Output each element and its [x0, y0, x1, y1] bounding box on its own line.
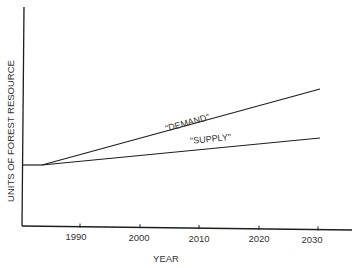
supply-label: "SUPPLY" [190, 132, 232, 146]
supply-line [42, 138, 320, 165]
x-tick-label-2000: 2000 [128, 232, 149, 243]
demand-label: "DEMAND" [164, 112, 210, 134]
y-axis [22, 7, 24, 226]
chart: 1990 2000 2010 2020 2030 YEAR UNITS OF F… [0, 0, 358, 268]
x-tick-label-2020: 2020 [248, 233, 269, 244]
x-tick-label-1990: 1990 [65, 231, 86, 242]
x-axis [22, 226, 352, 230]
y-axis-label: UNITS OF FOREST RESOURCE [5, 60, 16, 202]
x-tick-label-2030: 2030 [301, 234, 322, 245]
x-axis-label: YEAR [153, 253, 179, 264]
x-tick-label-2010: 2010 [188, 233, 209, 244]
